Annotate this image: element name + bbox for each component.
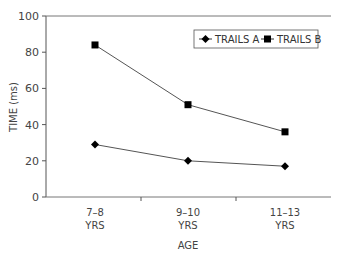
square-marker [185,101,192,108]
line-chart: 020406080100 7–8YRS9–10YRS11–13YRS TIME … [0,0,339,260]
diamond-marker [184,157,192,165]
legend-label: TRAILS B [276,34,322,45]
diamond-marker [91,141,99,149]
y-axis-label: TIME (ms) [8,82,19,133]
square-marker [282,128,289,135]
x-tick-label: 9–10 [176,207,200,218]
y-tick-label: 20 [25,155,39,168]
x-tick-label: 7–8 [86,207,104,218]
x-ticks: 7–8YRS9–10YRS11–13YRS [84,197,300,231]
x-tick-label: YRS [177,220,197,231]
x-tick-label: YRS [84,220,104,231]
square-marker [92,41,99,48]
series-trails-a [91,141,289,171]
y-tick-label: 100 [18,10,39,23]
y-tick-label: 60 [25,82,39,95]
legend: TRAILS ATRAILS B [194,30,322,48]
series-trails-b [92,41,289,135]
y-tick-label: 80 [25,46,39,59]
legend-label: TRAILS A [214,34,260,45]
square-marker [264,36,271,43]
y-ticks: 020406080100 [18,10,46,204]
x-axis-label: AGE [178,240,199,251]
x-tick-label: 11–13 [270,207,300,218]
x-tick-label: YRS [274,220,294,231]
y-tick-label: 40 [25,119,39,132]
series-group [91,41,289,170]
series-line [95,45,285,132]
y-tick-label: 0 [32,191,39,204]
series-line [95,145,285,167]
diamond-marker [281,162,289,170]
